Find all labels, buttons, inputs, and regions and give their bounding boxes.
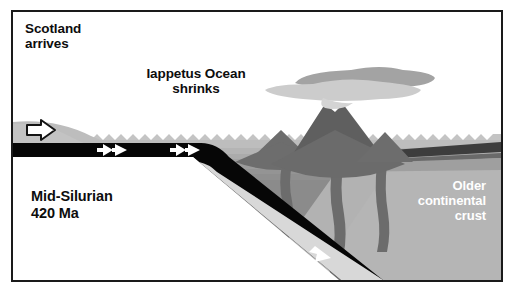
geology-cross-section-figure: Scotland arrives Iappetus Ocean shrinks … bbox=[0, 0, 516, 296]
cross-section-illustration bbox=[13, 12, 501, 280]
label-age-mid-silurian: Mid-Silurian 420 Ma bbox=[31, 188, 113, 221]
label-scotland-arrives: Scotland arrives bbox=[25, 21, 81, 52]
label-older-continental-crust: Older continental crust bbox=[371, 179, 486, 223]
label-iapetus-ocean-shrinks: Iappetus Ocean shrinks bbox=[126, 66, 266, 97]
figure-frame: Scotland arrives Iappetus Ocean shrinks … bbox=[11, 10, 503, 282]
